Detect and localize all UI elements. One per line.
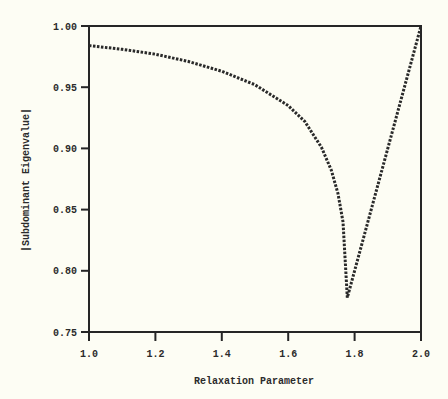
chart: 0.750.800.850.900.951.00 1.01.21.41.61.8… [0, 0, 448, 399]
x-tick-label: 2.0 [412, 349, 430, 360]
y-axis-ticks: 0.750.800.850.900.951.00 [53, 22, 89, 339]
y-tick-label: 0.90 [53, 144, 77, 155]
x-tick-label: 1.2 [146, 349, 164, 360]
y-axis-label: |Subdominant Eigenvalue| [21, 108, 32, 252]
y-tick-label: 0.85 [53, 205, 77, 216]
x-axis-label: Relaxation Parameter [194, 376, 314, 387]
x-axis-ticks: 1.01.21.41.61.82.0 [80, 332, 430, 360]
x-tick-label: 1.0 [80, 349, 98, 360]
x-tick-label: 1.4 [213, 349, 231, 360]
y-tick-label: 1.00 [53, 22, 77, 33]
eigenvalue-curve [89, 26, 421, 298]
x-tick-label: 1.8 [346, 349, 364, 360]
plot-frame [89, 26, 421, 332]
y-tick-label: 0.75 [53, 328, 77, 339]
y-tick-label: 0.80 [53, 266, 77, 277]
x-tick-label: 1.6 [279, 349, 297, 360]
y-tick-label: 0.95 [53, 83, 77, 94]
